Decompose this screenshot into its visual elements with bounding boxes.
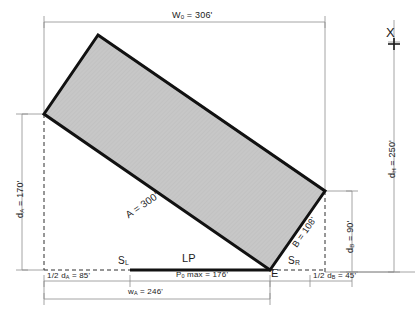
label-setback-left-symbol: S [118, 255, 125, 266]
label-setback-right-symbol: S [288, 255, 295, 266]
building-footprint-polygon [44, 35, 325, 270]
label-right-height-sub: H [390, 168, 397, 172]
label-corner-e: E [271, 268, 279, 279]
label-left-height-sub: A [18, 209, 25, 213]
label-half-db-value: = 45' [338, 271, 356, 280]
label-top-width: W0 = 306' [172, 11, 213, 20]
label-half-da-symbol: 1/2 d [47, 271, 66, 280]
label-po-max-sub: 0 [182, 273, 185, 279]
label-right-small-height-value: = 90' [345, 221, 355, 242]
label-top-width-symbol: W [172, 10, 181, 20]
label-right-height-symbol: d [387, 173, 397, 178]
label-half-da-sub: A [66, 274, 70, 280]
label-lot-line-lp: LP [182, 253, 196, 264]
label-setback-right: SR [288, 256, 300, 267]
label-po-max-value: max = 176' [187, 270, 228, 279]
label-right-small-height-sub: B [348, 244, 355, 248]
label-left-height-value: = 170' [15, 180, 25, 206]
label-setback-left-sub: L [125, 259, 129, 266]
label-half-db-symbol: 1/2 d [313, 271, 332, 280]
label-left-height-symbol: d [15, 213, 25, 218]
label-top-width-value: = 306' [187, 10, 213, 20]
label-half-da: 1/2 dA = 85' [47, 272, 90, 281]
label-axis-x: X [386, 26, 395, 39]
label-right-small-height: dB = 90' [346, 221, 355, 254]
diagram-canvas: W0 = 306' X dH = 250' dA = 170' dB = 90'… [0, 0, 415, 320]
label-half-da-value: = 85' [72, 271, 90, 280]
label-top-width-sub: 0 [181, 13, 184, 20]
label-right-height: dH = 250' [388, 140, 397, 178]
label-left-height: dA = 170' [16, 180, 25, 218]
label-setback-right-sub: R [295, 259, 300, 266]
label-bottom-width-sub: A [134, 290, 138, 296]
label-bottom-width: wA = 246' [128, 288, 163, 297]
label-half-db: 1/2 dB = 45' [313, 272, 356, 281]
label-half-db-sub: B [332, 274, 336, 280]
label-setback-left: SL [118, 256, 129, 267]
label-right-height-value: = 250' [387, 140, 397, 166]
label-po-max: P0 max = 176' [176, 271, 228, 280]
label-bottom-width-value: = 246' [140, 287, 163, 296]
label-right-small-height-symbol: d [345, 248, 355, 253]
